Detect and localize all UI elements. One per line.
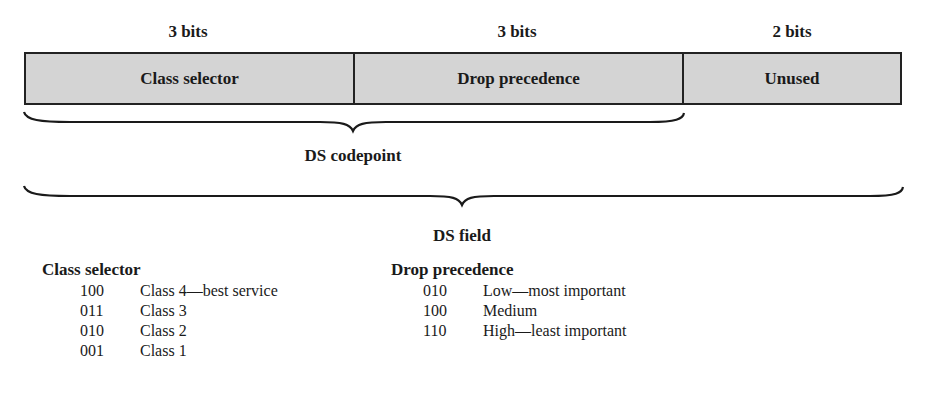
legend-code: 010 [423,281,483,301]
legend-row: 100 Class 4—best service [80,281,278,301]
legend-class-selector: Class selector 100 Class 4—best service … [42,260,278,361]
legend-code: 001 [80,341,140,361]
ds-field-brace-icon [24,186,903,205]
legend-row: 011 Class 3 [80,301,278,321]
legend-code: 110 [423,321,483,341]
legend-code: 010 [80,321,140,341]
codepoint-brace-icon [24,112,684,131]
legend-description: Class 1 [140,341,187,361]
legend-row: 001 Class 1 [80,341,278,361]
legend-description: Class 4—best service [140,281,278,301]
legend-description: High—least important [483,321,627,341]
legend-code: 011 [80,301,140,321]
legend-description: Medium [483,301,537,321]
legend-row: 100 Medium [423,301,627,321]
legend-row: 010 Class 2 [80,321,278,341]
legend-description: Class 2 [140,321,187,341]
legend-code: 100 [80,281,140,301]
legend-drop-precedence-title: Drop precedence [391,260,627,280]
ds-field-label: DS field [312,226,612,246]
legend-description: Low—most important [483,281,626,301]
ds-codepoint-label: DS codepoint [203,146,503,166]
legend-drop-precedence: Drop precedence 010 Low—most important 1… [391,260,627,341]
legend-row: 010 Low—most important [423,281,627,301]
legend-class-selector-title: Class selector [42,260,278,280]
legend-description: Class 3 [140,301,187,321]
legend-code: 100 [423,301,483,321]
legend-row: 110 High—least important [423,321,627,341]
